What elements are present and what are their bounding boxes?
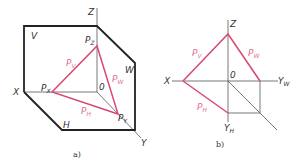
caption-b: b)	[216, 140, 224, 149]
figure-b: Z X 0 YW YH PV PW PH b)	[163, 19, 291, 149]
pw-trace-label: PW	[112, 74, 124, 85]
plane-v-label: V	[31, 31, 38, 41]
diagonal-45	[228, 81, 277, 130]
ph-trace-label: PH	[81, 106, 91, 117]
yh-label: YH	[224, 123, 235, 134]
caption-a: a)	[73, 150, 81, 159]
px-label: PX	[41, 83, 51, 94]
plane-h-label: H	[63, 120, 70, 130]
pz-label: PZ	[85, 35, 95, 46]
pw-label-b: PW	[248, 48, 260, 59]
pv-trace-label: PV	[66, 58, 76, 69]
x-label-b: X	[163, 76, 171, 86]
figure-a: Z X Y 0 V H W PZ PX PY PV PH PW a)	[12, 7, 148, 159]
x-label: X	[12, 87, 20, 97]
plane-w-label: W	[125, 65, 135, 75]
py-label: PY	[118, 113, 128, 124]
yw-label: YW	[278, 76, 291, 87]
pv-label-b: PV	[192, 48, 202, 59]
projection-diagram: Z X Y 0 V H W PZ PX PY PV PH PW a) Z X 0…	[0, 0, 300, 166]
origin-label: 0	[99, 82, 105, 92]
z-label: Z	[87, 7, 95, 17]
origin-label-b: 0	[230, 70, 236, 80]
z-label-b: Z	[229, 19, 237, 29]
ph-label-b: PH	[197, 102, 207, 113]
y-label: Y	[141, 138, 148, 148]
